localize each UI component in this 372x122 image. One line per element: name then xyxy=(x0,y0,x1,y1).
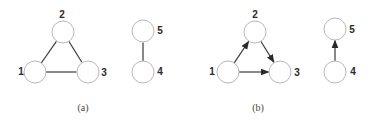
caption-a: (a) xyxy=(77,102,88,114)
edge-1-2 xyxy=(41,41,56,63)
node-label-4: 4 xyxy=(350,66,356,77)
graph-b-directed: 12345 (b) xyxy=(209,9,356,115)
node-label-2: 2 xyxy=(59,9,65,20)
node-label-5: 5 xyxy=(349,24,355,35)
node-3 xyxy=(269,61,291,83)
node-label-4: 4 xyxy=(157,66,163,77)
node-2 xyxy=(244,21,266,43)
node-label-2: 2 xyxy=(252,9,258,20)
node-1 xyxy=(217,61,239,83)
node-3 xyxy=(77,61,99,83)
node-label-1: 1 xyxy=(209,66,215,77)
node-layer: 12345 xyxy=(209,9,356,83)
node-2 xyxy=(52,21,74,43)
edge-1-2 xyxy=(234,42,248,63)
node-1 xyxy=(24,61,46,83)
node-5 xyxy=(324,18,346,40)
node-label-1: 1 xyxy=(18,66,24,77)
node-4 xyxy=(132,61,154,83)
node-label-3: 3 xyxy=(101,67,107,78)
node-5 xyxy=(132,20,154,42)
graph-a-undirected: 12345 (a) xyxy=(18,9,163,115)
node-4 xyxy=(324,61,346,83)
node-label-5: 5 xyxy=(157,25,163,36)
node-layer: 12345 xyxy=(18,9,163,83)
graph-diagram: 12345 (a) 12345 (b) xyxy=(0,0,372,122)
node-label-3: 3 xyxy=(294,67,300,78)
edge-2-3 xyxy=(69,41,82,62)
edge-2-3 xyxy=(261,41,274,62)
caption-b: (b) xyxy=(252,102,264,114)
